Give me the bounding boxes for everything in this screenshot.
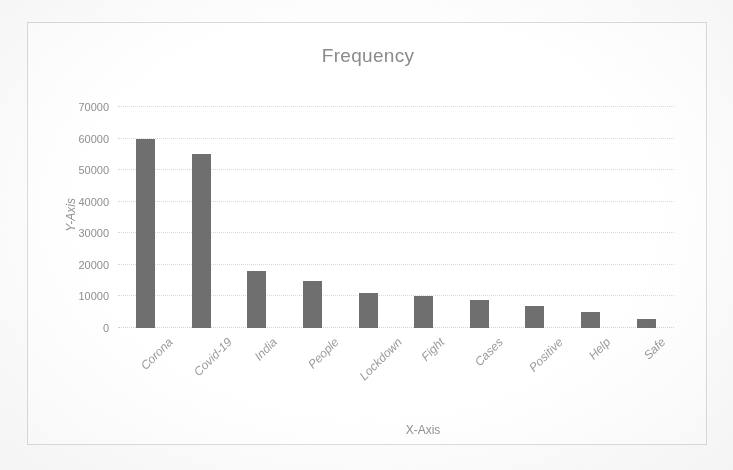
bar-slot — [507, 107, 563, 328]
scanned-page: Frequency 010000200003000040000500006000… — [0, 0, 733, 470]
x-label-slot: India — [229, 328, 285, 398]
x-label-slot: Covid-19 — [174, 328, 230, 398]
y-axis-tick-label: 20000 — [78, 259, 109, 271]
bar-slot — [452, 107, 508, 328]
bar-slot — [618, 107, 674, 328]
bar — [470, 300, 489, 328]
y-axis-tick-label: 40000 — [78, 196, 109, 208]
x-label-slot: Safe — [618, 328, 674, 398]
x-label-slot: Lockdown — [340, 328, 396, 398]
bar-slot — [396, 107, 452, 328]
bar-slot — [118, 107, 174, 328]
x-label-slot: Fight — [396, 328, 452, 398]
x-axis-tick-label: India — [252, 335, 280, 363]
y-axis-tick-label: 30000 — [78, 227, 109, 239]
bar — [136, 139, 155, 328]
x-axis-tick-label: Corona — [138, 335, 176, 373]
bar-slot — [285, 107, 341, 328]
x-label-slot: Help — [563, 328, 619, 398]
bar-slot — [174, 107, 230, 328]
bar — [525, 306, 544, 328]
x-axis-tick-labels: CoronaCovid-19IndiaPeopleLockdownFightCa… — [118, 328, 674, 398]
bar — [303, 281, 322, 328]
y-axis-tick-label: 70000 — [78, 101, 109, 113]
bar-series — [118, 107, 674, 328]
bar — [637, 319, 656, 328]
bar — [247, 271, 266, 328]
x-axis-tick-label: Fight — [418, 335, 447, 364]
x-axis-title: X-Axis — [145, 423, 701, 437]
y-axis-tick-label: 50000 — [78, 164, 109, 176]
x-axis-tick-label: Safe — [641, 335, 668, 362]
plot-area: 010000200003000040000500006000070000 Cor… — [118, 107, 674, 328]
bar-slot — [229, 107, 285, 328]
bar — [359, 293, 378, 328]
bar — [581, 312, 600, 328]
y-axis-tick-label: 0 — [103, 322, 109, 334]
x-label-slot: Positive — [507, 328, 563, 398]
chart-frame: Frequency 010000200003000040000500006000… — [27, 22, 707, 445]
x-label-slot: Cases — [452, 328, 508, 398]
x-label-slot: People — [285, 328, 341, 398]
x-label-slot: Corona — [118, 328, 174, 398]
y-axis-title: Y-Axis — [64, 198, 78, 232]
chart-title: Frequency — [28, 45, 708, 67]
bar — [414, 296, 433, 328]
x-axis-tick-label: Positive — [526, 335, 566, 375]
bar-slot — [340, 107, 396, 328]
x-axis-tick-label: Cases — [472, 335, 506, 369]
x-axis-tick-label: Help — [585, 335, 612, 362]
y-axis-tick-label: 60000 — [78, 133, 109, 145]
y-axis-tick-label: 10000 — [78, 290, 109, 302]
bar-slot — [563, 107, 619, 328]
x-axis-tick-label: People — [305, 335, 341, 371]
bar — [192, 154, 211, 328]
